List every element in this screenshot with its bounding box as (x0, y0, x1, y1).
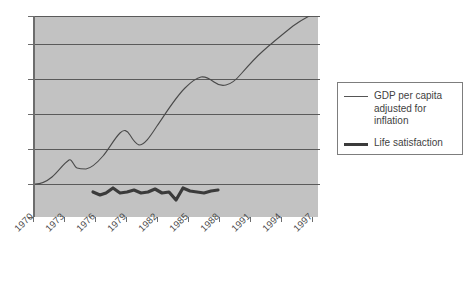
y-axis-tick (28, 149, 33, 150)
gridlines (35, 17, 320, 185)
plot-area (33, 16, 318, 217)
y-axis-tick (28, 79, 33, 80)
x-axis-label-1970: 1970 (12, 210, 35, 233)
y-axis-tick (28, 184, 33, 185)
y-axis-tick (28, 114, 33, 115)
y-axis-tick (28, 16, 33, 17)
legend-swatch-thin-line-icon (344, 96, 368, 97)
series-line-gdp-per-capita (35, 16, 313, 184)
chart-figure: 1970 1973 1976 1979 1982 1985 1988 1991 … (0, 0, 473, 281)
legend-label-life-satisfaction: Life satisfaction (374, 137, 443, 150)
series-line-life-satisfaction (93, 188, 218, 200)
legend-label-gdp-per-capita: GDP per capita adjusted for inflation (374, 90, 442, 128)
legend-item-gdp-per-capita: GDP per capita adjusted for inflation (344, 90, 462, 128)
legend-swatch-thick-line-icon (344, 143, 368, 146)
y-axis-tick (28, 44, 33, 45)
legend-item-life-satisfaction: Life satisfaction (344, 137, 462, 150)
plot-canvas (35, 16, 320, 217)
chart-legend: GDP per capita adjusted for inflation Li… (337, 82, 463, 155)
